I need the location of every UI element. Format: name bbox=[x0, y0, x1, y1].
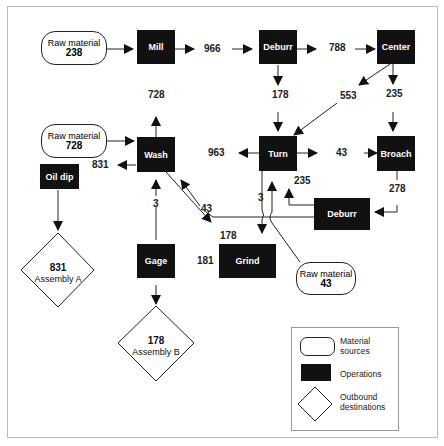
flow-178-wash-grind: 178 bbox=[220, 230, 237, 241]
flow-3-turn-grind: 3 bbox=[258, 192, 264, 203]
flow-3-gage-wash: 3 bbox=[153, 198, 159, 209]
legend-black-rect-icon bbox=[301, 364, 331, 381]
op-oil-dip: Oil dip bbox=[40, 164, 79, 189]
flow-788: 788 bbox=[329, 42, 346, 53]
source-label: Raw material bbox=[300, 269, 353, 279]
dest-value: 831 bbox=[50, 262, 67, 273]
flow-235-center: 235 bbox=[386, 88, 403, 99]
op-gage: Gage bbox=[137, 244, 175, 278]
flow-181: 181 bbox=[197, 255, 214, 266]
op-deburr-2: Deburr bbox=[314, 198, 370, 230]
flow-728: 728 bbox=[148, 89, 165, 100]
flow-235-deburr: 235 bbox=[294, 175, 311, 186]
flow-178-deburr-turn: 178 bbox=[272, 89, 289, 100]
op-broach: Broach bbox=[377, 136, 415, 171]
flow-966: 966 bbox=[204, 43, 221, 54]
dest-value: 178 bbox=[148, 335, 165, 346]
op-turn: Turn bbox=[259, 136, 297, 171]
source-raw-material-43: Raw material 43 bbox=[296, 262, 356, 295]
dest-assembly-a: 831 Assembly A bbox=[28, 262, 88, 285]
op-grind: Grind bbox=[219, 244, 276, 278]
dest-assembly-b: 178 Assembly B bbox=[126, 335, 186, 358]
flow-963: 963 bbox=[208, 147, 225, 158]
legend-label-destinations: Outbound destinations bbox=[340, 392, 395, 412]
dest-label: Assembly B bbox=[132, 347, 180, 357]
legend-label-sources: Material sources bbox=[340, 336, 390, 356]
op-center: Center bbox=[377, 30, 415, 64]
source-raw-material-238: Raw material 238 bbox=[41, 31, 107, 65]
source-value: 238 bbox=[66, 48, 83, 58]
legend: Material sources Operations Outbound des… bbox=[291, 327, 399, 431]
flow-43-deburr-wash: 43 bbox=[201, 203, 212, 214]
flow-278: 278 bbox=[389, 183, 406, 194]
flow-553: 553 bbox=[340, 90, 357, 101]
source-raw-material-728: Raw material 728 bbox=[41, 124, 107, 158]
legend-diamond-icon bbox=[296, 385, 336, 425]
op-wash: Wash bbox=[137, 137, 175, 172]
op-mill: Mill bbox=[137, 30, 175, 64]
source-value: 43 bbox=[320, 279, 331, 289]
legend-label-operations: Operations bbox=[340, 369, 382, 379]
dest-label: Assembly A bbox=[34, 274, 81, 284]
source-value: 728 bbox=[66, 141, 83, 151]
flow-43-broach: 43 bbox=[336, 147, 347, 158]
flow-831: 831 bbox=[92, 159, 109, 170]
legend-rounded-rect-icon bbox=[300, 337, 335, 356]
op-deburr-1: Deburr bbox=[259, 30, 297, 64]
